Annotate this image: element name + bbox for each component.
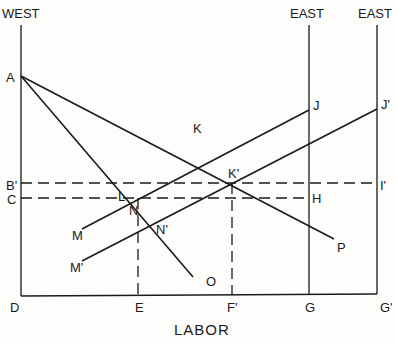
labor-allocation-diagram: WEST EAST EAST LABOR A B' C D E F' G G' … (0, 0, 396, 345)
point-label-m-prime: M' (70, 260, 83, 275)
point-label-k: K (193, 121, 202, 136)
point-label-h: H (312, 191, 321, 206)
point-label-d: D (10, 300, 19, 315)
point-label-b-prime: B' (6, 178, 17, 193)
point-label-k-prime: K' (228, 166, 239, 181)
line-a-p (21, 76, 334, 239)
point-label-g-prime: G' (380, 300, 393, 315)
west-axis-title: WEST (2, 6, 40, 21)
point-label-m: M (72, 228, 83, 243)
point-label-j-prime: J' (381, 97, 390, 112)
east-axis-title: EAST (290, 6, 324, 21)
point-label-p: P (337, 240, 346, 255)
point-label-l: L (118, 189, 125, 204)
point-label-e: E (135, 300, 144, 315)
east-prime-axis-title: EAST (358, 6, 392, 21)
line-a-o (21, 76, 193, 277)
point-label-j: J (313, 98, 320, 113)
labor-axis-title: LABOR (174, 321, 230, 338)
point-label-c: C (7, 192, 16, 207)
point-label-g: G (305, 300, 315, 315)
point-label-i-prime: I' (380, 178, 386, 193)
point-label-a: A (6, 70, 15, 85)
labor-axis (21, 294, 377, 296)
point-label-f-prime: F' (227, 300, 237, 315)
point-label-o: O (206, 274, 216, 289)
point-label-n-prime: N' (156, 222, 168, 237)
point-label-n: N (129, 203, 138, 218)
